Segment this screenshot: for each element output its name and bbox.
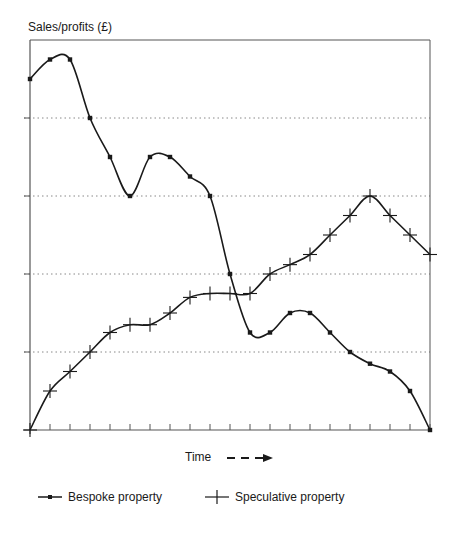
line-with-dot-icon bbox=[38, 492, 62, 502]
legend-item-bespoke: Bespoke property bbox=[38, 490, 162, 504]
square-marker bbox=[388, 369, 392, 373]
square-marker bbox=[168, 155, 172, 159]
y-axis-label: Sales/profits (£) bbox=[28, 20, 112, 34]
square-marker bbox=[108, 155, 112, 159]
square-marker bbox=[28, 77, 32, 81]
legend-label-bespoke: Bespoke property bbox=[68, 490, 162, 504]
square-marker bbox=[288, 311, 292, 315]
square-marker bbox=[348, 350, 352, 354]
bespoke-line bbox=[30, 54, 430, 430]
legend-item-speculative: Speculative property bbox=[205, 490, 344, 504]
square-marker bbox=[408, 389, 412, 393]
square-marker bbox=[228, 272, 232, 276]
line-with-plus-icon bbox=[205, 490, 229, 504]
speculative-line bbox=[30, 196, 430, 430]
x-axis-label-text: Time bbox=[185, 450, 211, 464]
square-marker bbox=[268, 330, 272, 334]
square-marker bbox=[188, 174, 192, 178]
square-marker bbox=[128, 194, 132, 198]
square-marker bbox=[208, 194, 212, 198]
square-marker bbox=[308, 311, 312, 315]
square-marker bbox=[148, 155, 152, 159]
square-marker bbox=[428, 428, 432, 432]
square-marker bbox=[68, 57, 72, 61]
dashed-arrow-icon bbox=[227, 453, 277, 463]
legend-label-speculative: Speculative property bbox=[235, 490, 344, 504]
square-marker bbox=[248, 330, 252, 334]
square-marker bbox=[328, 330, 332, 334]
square-marker bbox=[368, 362, 372, 366]
x-axis-label: Time bbox=[185, 450, 277, 464]
square-marker bbox=[88, 116, 92, 120]
square-marker bbox=[48, 57, 52, 61]
